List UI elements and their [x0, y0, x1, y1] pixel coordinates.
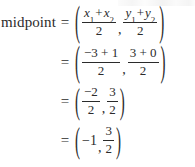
fraction-y-2: 3 + 0 2 — [128, 46, 159, 78]
numerator-y-3: 3 — [107, 85, 118, 101]
close-paren-icon-2: ) — [160, 41, 167, 84]
equals-sign-1: = — [58, 14, 72, 31]
open-paren-icon-4: ( — [74, 122, 81, 159]
expression-line-2: ( −3 + 1 2 , 3 + 0 2 ) — [74, 46, 167, 78]
denominator-x-3: 2 — [86, 102, 97, 118]
fraction-x-2: −3 + 1 2 — [82, 46, 120, 78]
equals-sign-2: = — [58, 54, 72, 71]
open-paren-icon-1: ( — [74, 1, 81, 44]
numerator-y-4: 3 — [103, 124, 114, 140]
x-coordinate-value: −1 — [81, 133, 97, 149]
denominator-x-1: 2 — [94, 23, 105, 39]
close-paren-icon-4: ) — [115, 122, 122, 159]
fraction-x-3: −2 2 — [82, 85, 100, 117]
close-paren-icon-1: ) — [158, 1, 165, 44]
numerator-y-2: 3 + 0 — [128, 46, 159, 62]
equals-sign-4: = — [58, 132, 72, 149]
numerator-x-1: x1+x2 — [82, 6, 116, 22]
denominator-y-2: 2 — [138, 63, 149, 79]
midpoint-label: midpoint — [0, 14, 56, 31]
expression-line-4: ( −1 , 3 2 ) — [74, 124, 122, 156]
denominator-y-1: 2 — [135, 23, 146, 39]
expression-line-1: ( x1+x2 2 , y1+y2 2 ) — [74, 6, 165, 38]
close-paren-icon-3: ) — [119, 83, 126, 120]
fraction-y-3: 3 2 — [107, 85, 118, 117]
fraction-x-1: x1+x2 2 — [82, 6, 116, 38]
numerator-y-1: y1+y2 — [123, 6, 157, 22]
equals-sign-3: = — [58, 93, 72, 110]
open-paren-icon-3: ( — [74, 83, 81, 120]
expression-line-3: ( −2 2 , 3 2 ) — [74, 85, 126, 117]
denominator-y-4: 2 — [103, 141, 114, 157]
coordinate-comma-4: , — [97, 140, 103, 157]
denominator-x-2: 2 — [96, 63, 107, 79]
denominator-y-3: 2 — [107, 102, 118, 118]
numerator-x-3: −2 — [82, 85, 100, 101]
fraction-y-1: y1+y2 2 — [123, 6, 157, 38]
fraction-y-4: 3 2 — [103, 124, 114, 156]
numerator-x-2: −3 + 1 — [82, 46, 120, 62]
coordinate-comma-3: , — [101, 101, 107, 118]
midpoint-derivation: midpoint = ( x1+x2 2 , y1+y2 2 ) = ( −3 … — [0, 0, 195, 167]
open-paren-icon-2: ( — [74, 41, 81, 84]
coordinate-comma-2: , — [121, 62, 127, 79]
coordinate-comma-1: , — [117, 22, 123, 39]
